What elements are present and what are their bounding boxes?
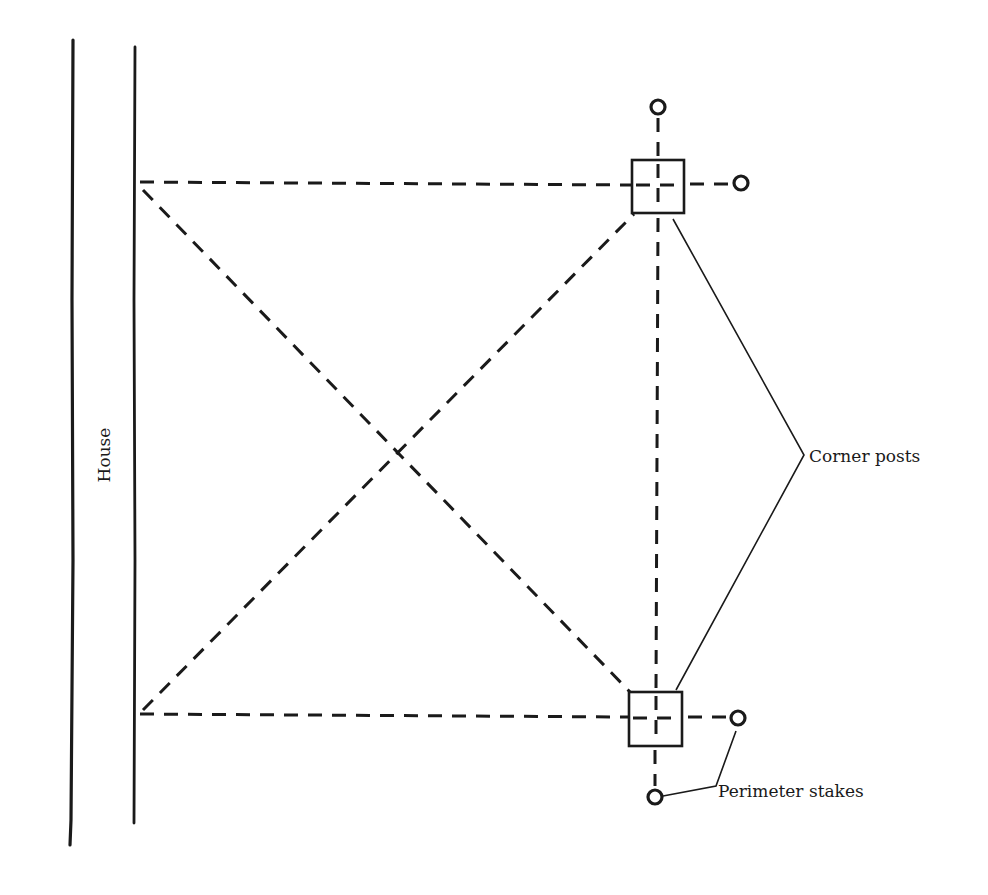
perimeter-stake-bottom (648, 790, 662, 804)
bottom-layout-line (140, 714, 629, 717)
house-label: House (94, 428, 114, 483)
house-outer-wall (70, 40, 73, 845)
perimeter-stake-top-right (734, 176, 748, 190)
house-inner-wall (134, 47, 135, 823)
perimeter-stake-top (651, 100, 665, 114)
perimeter-stake-bottom-right (731, 711, 745, 725)
corner-post-bottom (629, 692, 682, 746)
deck-layout-diagram: House Corner posts Perimeter stakes (0, 0, 988, 895)
corner-posts-label: Corner posts (809, 446, 920, 466)
diagonal-top-left-to-bottom-post (143, 190, 630, 692)
diagonal-bottom-left-to-top-post (143, 214, 634, 710)
corner-posts-leader (673, 219, 804, 690)
corner-post-top (632, 160, 684, 213)
side-layout-line (656, 218, 658, 690)
perimeter-stakes-label: Perimeter stakes (718, 781, 864, 801)
top-layout-line (140, 182, 632, 185)
